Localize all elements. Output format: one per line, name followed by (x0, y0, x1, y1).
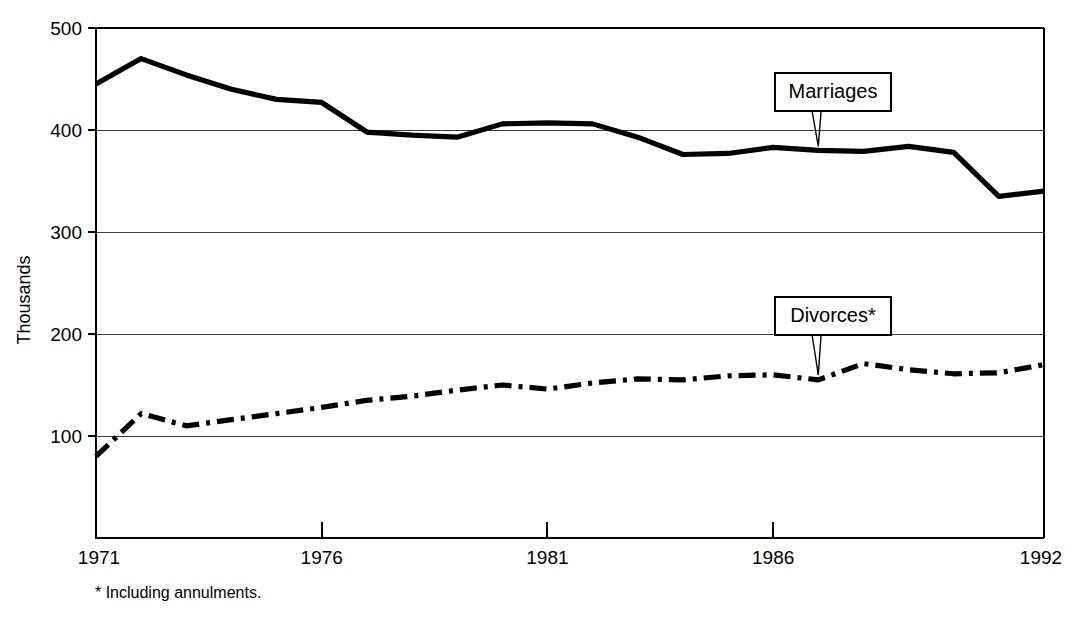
y-tick-label-400: 400 (50, 120, 82, 141)
chart-container: 100200300400500 19711976198119861992 Tho… (0, 0, 1081, 619)
chart-background (0, 0, 1081, 619)
x-tick-label-1976: 1976 (301, 547, 343, 568)
callout-label-marriages: Marriages (789, 80, 878, 102)
y-tick-label-300: 300 (50, 222, 82, 243)
x-tick-label-1981: 1981 (526, 547, 568, 568)
x-tick-label-1971: 1971 (78, 547, 120, 568)
y-tick-label-100: 100 (50, 426, 82, 447)
y-tick-label-500: 500 (50, 18, 82, 39)
y-axis-title: Thousands (14, 255, 34, 344)
callout-label-divorces: Divorces* (790, 304, 876, 326)
y-tick-label-200: 200 (50, 324, 82, 345)
x-tick-label-1992: 1992 (1020, 547, 1062, 568)
line-chart: 100200300400500 19711976198119861992 Tho… (0, 0, 1081, 619)
footnote: * Including annulments. (95, 584, 261, 601)
x-tick-label-1986: 1986 (752, 547, 794, 568)
